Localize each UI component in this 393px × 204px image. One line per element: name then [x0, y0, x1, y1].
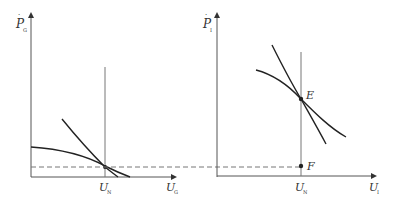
right-x-axis-sub: I: [377, 189, 379, 195]
right-y-axis-sub: I: [210, 27, 212, 33]
point-f-label: F: [306, 160, 315, 173]
right-steep-curve: [272, 45, 326, 144]
dot-icon: ·: [205, 11, 207, 19]
point-e: [299, 97, 303, 101]
left-vline-sub: N: [107, 189, 112, 195]
right-vline-sub: N: [303, 189, 308, 195]
left-y-axis-sub: G: [23, 27, 27, 33]
point-f: [299, 164, 303, 168]
left-x-axis-sub: G: [174, 189, 178, 195]
point-e-label: E: [305, 89, 314, 102]
phillips-curve-diagram: P G · U N U G E F P I · U N U I: [0, 0, 393, 204]
dot-icon: ·: [18, 11, 20, 19]
left-flat-curve: [31, 147, 130, 177]
